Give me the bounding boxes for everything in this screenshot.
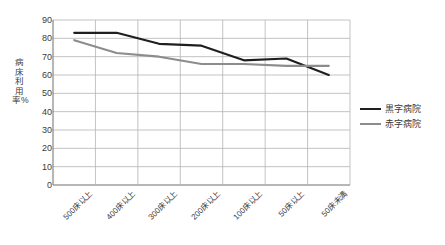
legend-swatch-loss-line — [360, 123, 381, 125]
legend-label-profit: 黒字病院 — [385, 104, 421, 114]
legend-label-loss: 赤字病院 — [385, 119, 421, 129]
series-line-0 — [74, 33, 329, 75]
chart-legend: 黒字病院 赤字病院 — [360, 101, 442, 131]
series-line-1 — [74, 40, 329, 66]
legend-item-loss: 赤字病院 — [360, 116, 442, 131]
legend-swatch-profit-line — [360, 108, 381, 110]
bed-utilization-line-chart: 病床利用率% 9080706050403020100 500床以上400床以上3… — [0, 0, 445, 245]
legend-item-profit: 黒字病院 — [360, 101, 442, 116]
